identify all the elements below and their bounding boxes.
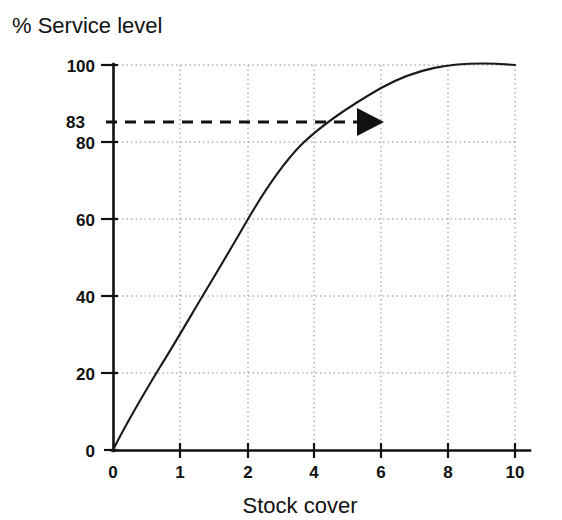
- x-tick-label-4: 4: [309, 463, 319, 482]
- x-tick-label-1: 1: [175, 463, 184, 482]
- y-axis-title: % Service level: [12, 13, 162, 38]
- service-level-value-label: 83: [66, 113, 85, 132]
- x-tick-label-0: 0: [108, 463, 117, 482]
- x-tick-label-10: 10: [506, 463, 525, 482]
- y-tick-label-0: 0: [86, 442, 95, 461]
- y-tick-label-100: 100: [67, 57, 95, 76]
- x-tick-label-6: 6: [376, 463, 385, 482]
- x-axis-title: Stock cover: [243, 493, 358, 518]
- service-level-chart: % Service level: [0, 0, 562, 520]
- y-tick-label-80: 80: [76, 134, 95, 153]
- chart-canvas: % Service level: [0, 0, 562, 520]
- y-tick-label-20: 20: [76, 365, 95, 384]
- y-tick-label-40: 40: [76, 288, 95, 307]
- x-tick-label-2: 2: [243, 463, 252, 482]
- chart-background: [0, 0, 562, 520]
- x-tick-label-8: 8: [443, 463, 452, 482]
- y-tick-label-60: 60: [76, 211, 95, 230]
